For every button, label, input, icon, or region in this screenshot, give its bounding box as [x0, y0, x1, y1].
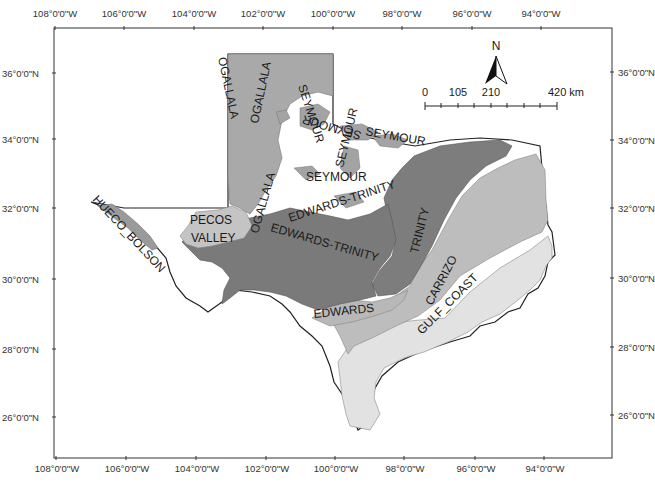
north-label: N: [492, 39, 501, 53]
north-arrow: N: [485, 39, 507, 84]
north-arrow-dark-half: [485, 56, 496, 84]
label-seymour-center: SEYMOUR: [306, 170, 367, 184]
label-valley: VALLEY: [191, 231, 235, 245]
scale-label-420: 420 km: [548, 86, 584, 98]
scale-label-105: 105: [449, 86, 467, 98]
scale-label-210: 210: [482, 86, 500, 98]
scale-label-0: 0: [422, 86, 428, 98]
north-arrow-light-half: [496, 56, 507, 84]
label-pecos: PECOS: [190, 213, 232, 227]
scale-bar: 0 105 210 420 km: [422, 86, 584, 110]
